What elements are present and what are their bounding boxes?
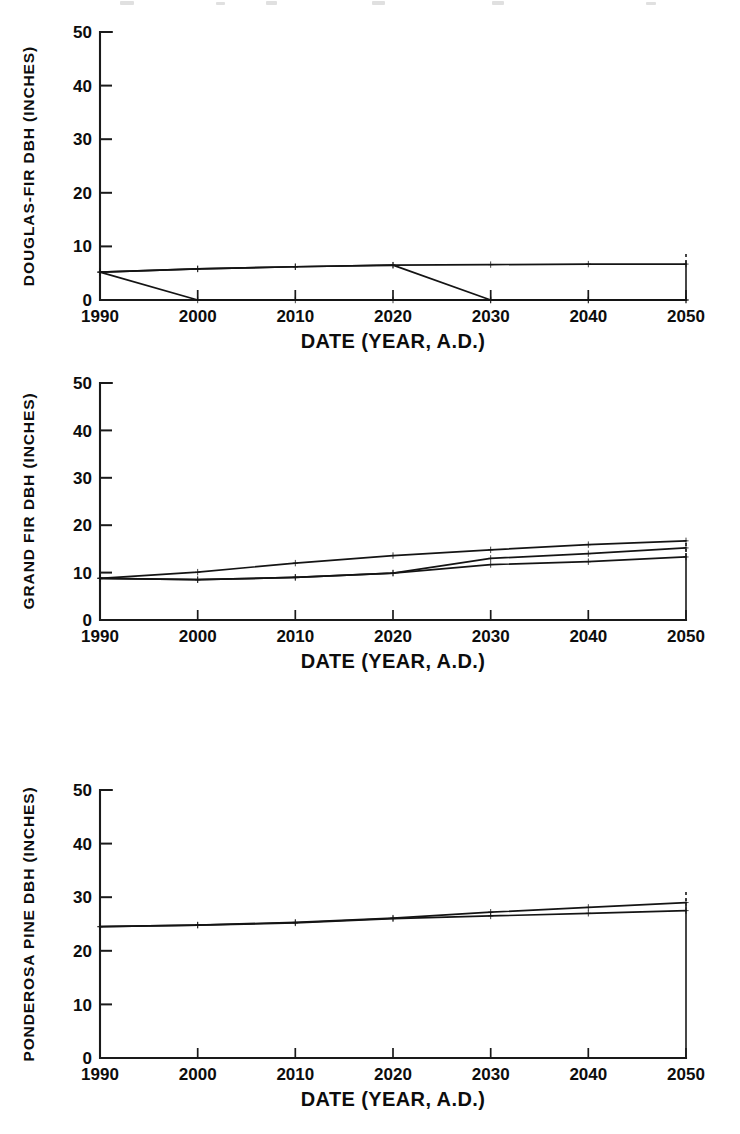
- x-tick-label: 1990: [81, 627, 119, 646]
- y-ticks: [100, 383, 112, 620]
- data-point-marker: [293, 920, 298, 926]
- data-point-marker: [390, 570, 395, 576]
- y-axis-title: PONDEROSA PINE DBH (INCHES): [20, 786, 37, 1061]
- y-tick-label: 20: [73, 942, 92, 961]
- data-point-marker: [683, 297, 688, 303]
- x-tick-label: 2020: [374, 627, 412, 646]
- grand-fir-plot: 0 10 20 30 40 50 1990 2000 2010 2020: [0, 355, 740, 740]
- x-tick-label: 2020: [374, 307, 412, 326]
- data-point-marker: [488, 297, 493, 303]
- y-tick-label: 10: [73, 996, 92, 1015]
- x-tick-label: 2020: [374, 1065, 412, 1084]
- data-point-marker: [586, 261, 591, 267]
- x-axis-title: DATE (YEAR, A.D.): [301, 650, 486, 672]
- axis-lines: [100, 790, 686, 1058]
- data-point-marker: [683, 545, 688, 551]
- x-tick-label: 2050: [667, 307, 705, 326]
- data-point-marker: [586, 550, 591, 556]
- y-tick-label: 40: [73, 77, 92, 96]
- data-point-marker: [683, 538, 688, 544]
- x-ticks: [100, 1048, 686, 1058]
- data-point-marker: [293, 560, 298, 566]
- x-tick-label: 2010: [276, 307, 314, 326]
- x-tick-label: 2040: [569, 307, 607, 326]
- data-point-marker: [683, 907, 688, 913]
- y-tick-labels: 0 10 20 30 40 50: [73, 374, 92, 630]
- series-line: [100, 557, 686, 580]
- data-point-marker: [97, 923, 102, 929]
- y-tick-labels: 0 10 20 30 40 50: [73, 23, 92, 310]
- x-axis-title: DATE (YEAR, A.D.): [301, 1088, 486, 1110]
- y-tick-label: 10: [73, 564, 92, 583]
- data-point-marker: [195, 577, 200, 583]
- x-tick-label: 1990: [81, 307, 119, 326]
- chart-panel-grand-fir: 0 10 20 30 40 50 1990 2000 2010 2020: [0, 355, 740, 740]
- x-tick-label: 2040: [569, 627, 607, 646]
- y-tick-labels: 0 10 20 30 40 50: [73, 781, 92, 1068]
- data-point-marker: [488, 547, 493, 553]
- axis-lines: [100, 383, 686, 620]
- data-point-marker: [195, 569, 200, 575]
- x-ticks: [100, 610, 686, 620]
- y-tick-label: 20: [73, 184, 92, 203]
- y-tick-label: 40: [73, 422, 92, 441]
- data-point-marker: [586, 559, 591, 565]
- data-point-marker: [195, 922, 200, 928]
- x-tick-label: 2030: [472, 307, 510, 326]
- data-point-marker: [97, 269, 102, 275]
- y-tick-label: 40: [73, 835, 92, 854]
- y-ticks: [100, 32, 112, 300]
- chart-panel-douglas-fir: 0 10 20 30 40 50 1990 2000 201: [0, 0, 740, 355]
- x-tick-label: 2000: [179, 307, 217, 326]
- y-tick-label: 30: [73, 130, 92, 149]
- data-point-marker: [488, 913, 493, 919]
- data-point-marker: [390, 915, 395, 921]
- y-ticks: [100, 790, 112, 1058]
- data-point-marker: [488, 261, 493, 267]
- axis-lines: [100, 32, 686, 300]
- data-point-marker: [390, 552, 395, 558]
- y-tick-label: 50: [73, 374, 92, 393]
- data-point-marker: [488, 555, 493, 561]
- data-point-marker: [683, 554, 688, 560]
- x-tick-labels: 1990 2000 2010 2020 2030 2040 2050: [81, 307, 705, 326]
- x-tick-label: 1990: [81, 1065, 119, 1084]
- y-tick-label: 30: [73, 888, 92, 907]
- y-tick-label: 50: [73, 781, 92, 800]
- x-tick-label: 2030: [472, 627, 510, 646]
- data-point-marker: [586, 910, 591, 916]
- data-point-marker: [195, 297, 200, 303]
- x-axis-title: DATE (YEAR, A.D.): [301, 330, 486, 352]
- data-point-marker: [683, 899, 688, 905]
- data-series-layer: [97, 899, 688, 930]
- data-series-layer: [97, 261, 688, 303]
- data-point-marker: [97, 575, 102, 581]
- douglas-fir-plot: 0 10 20 30 40 50 1990 2000 201: [0, 0, 740, 355]
- data-point-marker: [586, 541, 591, 547]
- data-point-marker: [390, 262, 395, 268]
- x-tick-label: 2050: [667, 627, 705, 646]
- x-tick-label: 2000: [179, 627, 217, 646]
- y-tick-label: 30: [73, 469, 92, 488]
- data-point-marker: [683, 261, 688, 267]
- y-axis-title: DOUGLAS-FIR DBH (INCHES): [20, 46, 37, 286]
- y-tick-label: 20: [73, 516, 92, 535]
- data-point-marker: [488, 561, 493, 567]
- data-point-marker: [293, 264, 298, 270]
- data-point-marker: [293, 297, 298, 303]
- x-tick-label: 2040: [569, 1065, 607, 1084]
- y-tick-label: 50: [73, 23, 92, 42]
- data-point-marker: [293, 574, 298, 580]
- chart-panel-ponderosa-pine: 0 10 20 30 40 50 1990 2000 2010 2020: [0, 740, 740, 1134]
- figure-page: 0 10 20 30 40 50 1990 2000 201: [0, 0, 740, 1134]
- x-tick-label: 2010: [276, 1065, 314, 1084]
- y-axis-title: GRAND FIR DBH (INCHES): [20, 393, 37, 610]
- x-tick-label: 2030: [472, 1065, 510, 1084]
- x-tick-label: 2050: [667, 1065, 705, 1084]
- ponderosa-pine-plot: 0 10 20 30 40 50 1990 2000 2010 2020: [0, 740, 740, 1134]
- data-point-marker: [390, 297, 395, 303]
- data-point-marker: [195, 266, 200, 272]
- series-line: [100, 903, 686, 927]
- y-tick-label: 10: [73, 237, 92, 256]
- data-series-layer: [97, 538, 688, 583]
